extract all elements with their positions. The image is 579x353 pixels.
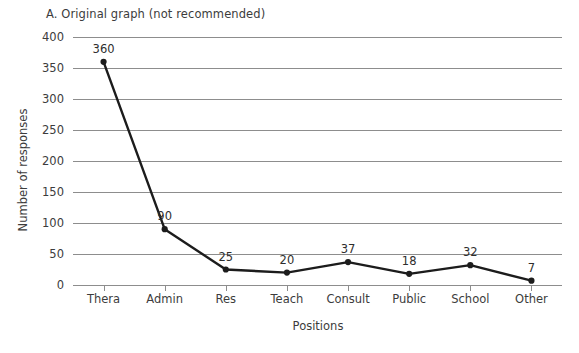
data-point-marker (100, 59, 106, 65)
data-point-label: 18 (402, 254, 417, 268)
x-axis-tick-label: Teach (270, 292, 304, 306)
x-axis-tick-label: School (451, 292, 489, 306)
y-axis-tick-label: 0 (57, 278, 64, 292)
data-point-label: 37 (341, 242, 356, 256)
y-axis-title: Number of responses (16, 109, 30, 232)
data-point-marker (467, 262, 473, 268)
data-point-label: 7 (528, 261, 535, 275)
y-axis-tick-label: 400 (42, 30, 64, 44)
x-axis-tick-label: Thera (86, 292, 120, 306)
data-point-marker (223, 266, 229, 272)
data-point-marker (528, 278, 534, 284)
data-point-label: 25 (218, 250, 233, 264)
data-point-marker (406, 271, 412, 277)
y-axis-tick-label: 150 (42, 185, 64, 199)
data-point-label: 20 (280, 253, 295, 267)
y-axis-tick-label: 200 (42, 154, 64, 168)
gridlines (73, 38, 562, 255)
y-axis-tick-label: 350 (42, 61, 64, 75)
data-point-label: 32 (463, 245, 478, 259)
line-chart-plot: 050100150200250300350400 TheraAdminResTe… (0, 0, 579, 353)
y-axis-tick-labels: 050100150200250300350400 (42, 30, 64, 292)
x-axis-tick-label: Consult (326, 292, 370, 306)
x-axis-tick-labels: TheraAdminResTeachConsultPublicSchoolOth… (86, 292, 548, 306)
y-axis-tick-label: 100 (42, 216, 64, 230)
data-point-label: 90 (157, 209, 172, 223)
x-axis (73, 286, 562, 291)
data-point-labels: 3609025203718327 (93, 42, 536, 275)
x-axis-tick-label: Other (515, 292, 548, 306)
data-point-marker (284, 270, 290, 276)
y-axis-tick-label: 300 (42, 92, 64, 106)
y-axis-tick-label: 50 (49, 247, 64, 261)
chart-figure: A. Original graph (not recommended) 0501… (0, 0, 579, 353)
x-axis-tick-label: Res (216, 292, 237, 306)
x-axis-title: Positions (293, 319, 344, 333)
x-axis-tick-label: Admin (146, 292, 183, 306)
y-axis-tick-label: 250 (42, 123, 64, 137)
data-point-marker (162, 226, 168, 232)
x-axis-tick-label: Public (392, 292, 426, 306)
data-point-label: 360 (93, 42, 115, 56)
data-point-marker (345, 259, 351, 265)
